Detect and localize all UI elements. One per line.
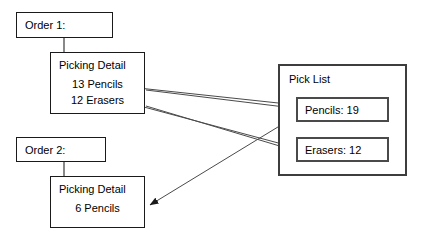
picking-detail-1-item-erasers: 12 Erasers <box>51 93 144 107</box>
arrow-pencils-19-to-13-pencils <box>129 87 297 105</box>
picking-detail-2-title: Picking Detail <box>59 182 126 196</box>
picking-detail-2-box: Picking Detail 6 Pencils <box>50 176 145 228</box>
flow-arrows <box>129 87 297 205</box>
arrow-12-erasers-to-erasers-12 <box>146 106 293 150</box>
picking-detail-1-box: Picking Detail 13 Pencils 12 Erasers <box>50 52 145 114</box>
arrow-13-pencils-to-pencils-19 <box>146 90 293 108</box>
picking-detail-1-title: Picking Detail <box>59 58 126 72</box>
order-1-label: Order 1: <box>17 18 65 32</box>
arrow-erasers-12-to-12-erasers <box>129 103 297 148</box>
arrow-pencils-19-to-6-pencils <box>150 119 291 205</box>
order-2-box: Order 2: <box>16 137 106 162</box>
pick-list-item-pencils-label: Pencils: 19 <box>298 103 359 117</box>
pick-list-title: Pick List <box>289 72 330 86</box>
pick-list-item-erasers-label: Erasers: 12 <box>298 143 361 157</box>
order-2-label: Order 2: <box>17 143 65 157</box>
diagram-canvas: Order 1: Picking Detail 13 Pencils 12 Er… <box>0 0 424 244</box>
picking-detail-2-item-pencils: 6 Pencils <box>51 201 144 215</box>
pick-list-item-pencils: Pencils: 19 <box>296 97 389 122</box>
order-1-box: Order 1: <box>16 12 113 38</box>
picking-detail-1-item-pencils: 13 Pencils <box>51 77 144 91</box>
pick-list-item-erasers: Erasers: 12 <box>296 137 389 162</box>
